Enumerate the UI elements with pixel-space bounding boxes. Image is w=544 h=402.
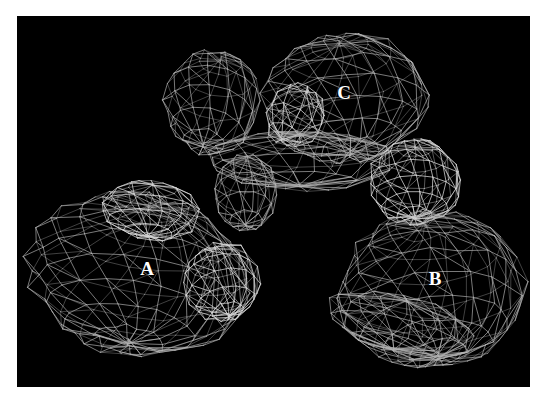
wireframe-figure <box>0 0 544 402</box>
